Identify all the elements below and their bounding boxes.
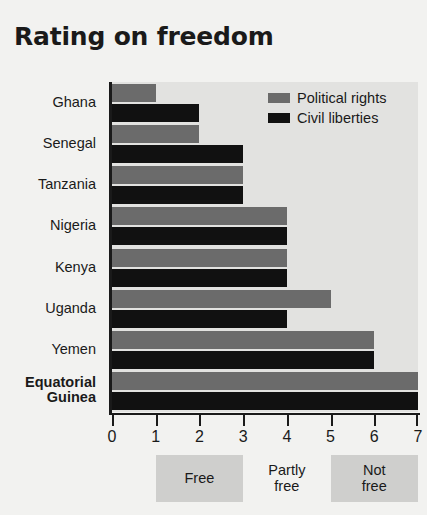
x-tick-label-6: 6 — [370, 428, 379, 446]
freedom-category-bands: FreePartlyfreeNotfree — [112, 455, 418, 505]
bar-tanzania-political-rights — [112, 166, 243, 184]
chart-title: Rating on freedom — [14, 22, 274, 51]
x-tick-label-7: 7 — [414, 428, 423, 446]
bar-tanzania-civil-liberties — [112, 186, 243, 204]
chart-container: Rating on freedom GhanaSenegalTanzaniaNi… — [0, 0, 427, 515]
bar-row — [112, 290, 418, 308]
x-tick-label-4: 4 — [282, 428, 291, 446]
bar-row — [112, 186, 418, 204]
x-tick-mark — [416, 415, 418, 426]
category-label-equatorial-guinea: EquatorialGuinea — [0, 375, 104, 405]
band-free: Free — [156, 455, 243, 502]
bar-kenya-civil-liberties — [112, 269, 287, 287]
x-tick-label-5: 5 — [326, 428, 335, 446]
category-label-kenya: Kenya — [0, 260, 104, 275]
band-label-line: Free — [185, 471, 215, 487]
x-tick-mark — [243, 415, 245, 426]
category-axis-labels: GhanaSenegalTanzaniaNigeriaKenyaUgandaYe… — [0, 82, 104, 412]
band-not-free: Notfree — [331, 455, 418, 502]
bar-row — [112, 166, 418, 184]
x-tick-label-3: 3 — [239, 428, 248, 446]
bar-uganda-political-rights — [112, 290, 331, 308]
bars-layer — [112, 82, 418, 412]
category-label-line: Tanzania — [0, 177, 96, 192]
category-label-ghana: Ghana — [0, 95, 104, 110]
x-axis-ticks: 01234567 — [112, 415, 418, 429]
x-tick-mark — [374, 415, 376, 426]
chart-legend: Political rightsCivil liberties — [268, 88, 386, 128]
bar-row — [112, 392, 418, 410]
band-label: Notfree — [362, 463, 387, 494]
bar-row — [112, 207, 418, 225]
band-label-line: Partly — [268, 463, 305, 479]
x-tick-mark — [112, 415, 114, 426]
bar-row — [112, 310, 418, 328]
bar-ghana-civil-liberties — [112, 104, 199, 122]
x-tick-label-2: 2 — [195, 428, 204, 446]
x-tick-mark — [199, 415, 201, 426]
bar-yemen-civil-liberties — [112, 351, 374, 369]
bar-row — [112, 269, 418, 287]
x-tick-mark — [287, 415, 289, 426]
bar-senegal-civil-liberties — [112, 145, 243, 163]
x-tick-label-0: 0 — [108, 428, 117, 446]
category-label-line: Uganda — [0, 301, 96, 316]
category-label-line: Equatorial — [0, 375, 96, 390]
category-label-line: Ghana — [0, 95, 96, 110]
bar-senegal-political-rights — [112, 125, 199, 143]
legend-label: Political rights — [297, 90, 386, 106]
bar-row — [112, 331, 418, 349]
category-label-senegal: Senegal — [0, 136, 104, 151]
category-label-tanzania: Tanzania — [0, 177, 104, 192]
legend-swatch-icon — [268, 93, 290, 103]
x-tick-label-1: 1 — [151, 428, 160, 446]
bar-kenya-political-rights — [112, 249, 287, 267]
category-label-line: Kenya — [0, 260, 96, 275]
bar-row — [112, 372, 418, 390]
category-label-uganda: Uganda — [0, 301, 104, 316]
legend-label: Civil liberties — [297, 110, 378, 126]
bar-nigeria-political-rights — [112, 207, 287, 225]
band-label-line: free — [362, 479, 387, 495]
band-label: Free — [185, 471, 215, 487]
category-label-yemen: Yemen — [0, 342, 104, 357]
bar-equatorial-guinea-political-rights — [112, 372, 418, 390]
bar-uganda-civil-liberties — [112, 310, 287, 328]
bar-row — [112, 227, 418, 245]
x-tick-mark — [331, 415, 333, 426]
legend-swatch-icon — [268, 113, 290, 123]
category-label-nigeria: Nigeria — [0, 218, 104, 233]
x-tick-mark — [156, 415, 158, 426]
band-partly-free: Partlyfree — [243, 455, 330, 502]
band-label-line: Not — [362, 463, 387, 479]
category-label-line: Senegal — [0, 136, 96, 151]
band-label: Partlyfree — [268, 463, 305, 494]
legend-item-political-rights: Political rights — [268, 88, 386, 107]
bar-nigeria-civil-liberties — [112, 227, 287, 245]
band-label-line: free — [268, 479, 305, 495]
bar-row — [112, 145, 418, 163]
category-label-line: Yemen — [0, 342, 96, 357]
bar-row — [112, 249, 418, 267]
category-label-line: Guinea — [0, 390, 96, 405]
legend-item-civil-liberties: Civil liberties — [268, 108, 386, 127]
category-label-line: Nigeria — [0, 218, 96, 233]
bar-row — [112, 351, 418, 369]
bar-equatorial-guinea-civil-liberties — [112, 392, 418, 410]
bar-yemen-political-rights — [112, 331, 374, 349]
bar-ghana-political-rights — [112, 84, 156, 102]
